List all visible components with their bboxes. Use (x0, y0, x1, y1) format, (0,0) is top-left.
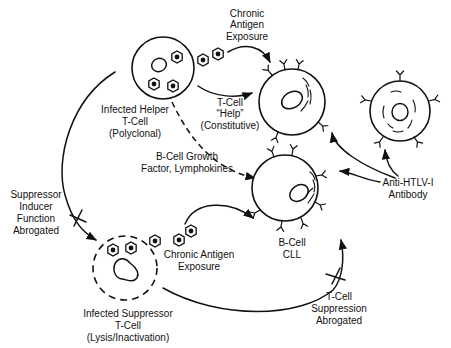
label-line: (Polyclonal) (109, 128, 161, 139)
virus-particle-icon (149, 78, 159, 90)
label-line: Infected Helper (101, 104, 169, 115)
upper-b-cell-membrane (259, 69, 325, 135)
virus-particle-icon (168, 80, 178, 92)
right-b-cell (361, 71, 440, 147)
label-line: T-Cell (122, 116, 148, 127)
label-line: Abrogated (316, 315, 362, 326)
label-line: CLL (283, 249, 302, 260)
helper-t-cell-label: Infected Helper T-Cell (Polyclonal) (101, 104, 169, 139)
label-line: T-Cell (217, 97, 243, 108)
virus-particle-icon (186, 225, 196, 237)
label-line: Anti-HTLV-I (383, 177, 434, 188)
suppressor-inducer-label: Suppressor Inducer Function Abrogated (10, 189, 62, 236)
virus-particle-icon (198, 54, 208, 66)
arrow-antigen-to-b-cell-cll (185, 205, 253, 224)
label-line: T-Cell (115, 320, 141, 331)
label-line: Infected Suppressor (83, 308, 173, 319)
t-cell-help-label: T-Cell “Help” (Constitutive) (201, 97, 260, 131)
label-line: “Help” (216, 108, 243, 119)
arrow-antibody-to-right-b-cell (385, 150, 398, 176)
label-line: Suppressor (10, 189, 62, 200)
receptor-icon (289, 145, 298, 156)
label-line: Chronic Antigen (164, 249, 235, 260)
virus-particle-icon (126, 242, 136, 254)
label-line: Antibody (389, 189, 428, 200)
chronic-antigen-exposure-top-label: Chronic Antigen Exposure (226, 8, 269, 42)
label-line: Factor, Lymphokines (141, 163, 233, 174)
arrow-antigen-to-upper-b-cell (228, 47, 270, 62)
receptor-icon (397, 71, 404, 81)
suppressor-t-cell-membrane-dashed (93, 236, 157, 300)
htlv-cll-diagram: Infected Helper T-Cell (Polyclonal) Chro… (0, 0, 451, 348)
receptor-icon (361, 96, 372, 105)
anti-htlv-antibody-label: Anti-HTLV-I Antibody (383, 177, 434, 200)
helper-t-cell-membrane (132, 37, 194, 99)
receptor-icon (428, 95, 439, 104)
label-line: Inducer (19, 201, 53, 212)
label-line: Exposure (178, 261, 221, 272)
label-line: T-Cell (326, 291, 352, 302)
infected-suppressor-t-cell (93, 236, 157, 300)
label-line: Abrogated (13, 225, 59, 236)
t-cell-suppression-label: T-Cell Suppression Abrogated (311, 291, 367, 326)
infected-helper-t-cell (132, 37, 194, 99)
arrow-antibody-to-b-cell-cll (340, 171, 380, 182)
label-line: Exposure (226, 31, 269, 42)
label-line: Function (17, 213, 55, 224)
virus-particle-icon (108, 244, 118, 256)
label-line: Suppression (311, 303, 367, 314)
virus-particle-icon (174, 234, 184, 246)
b-cell-cll-label: B-Cell CLL (278, 237, 305, 260)
growth-factor-label: B-Cell Growth Factor, Lymphokines (141, 151, 233, 174)
b-cell-cll (250, 145, 327, 232)
label-line: B-Cell (278, 237, 305, 248)
label-line: B-Cell Growth (156, 151, 218, 162)
virus-particle-icon (172, 51, 182, 63)
upper-b-cell (259, 60, 328, 143)
receptor-icon (277, 220, 286, 231)
suppressor-t-cell-label: Infected Suppressor T-Cell (Lysis/Inacti… (83, 308, 173, 343)
label-line: (Constitutive) (201, 120, 260, 131)
label-line: Antigen (230, 19, 264, 30)
chronic-antigen-exposure-bottom-label: Chronic Antigen Exposure (164, 249, 235, 272)
arrow-t-cell-help (198, 86, 252, 96)
virus-particle-icon (213, 48, 223, 60)
label-line: (Lysis/Inactivation) (87, 332, 169, 343)
virus-particle-icon (150, 235, 160, 247)
label-line: Chronic (230, 8, 264, 19)
